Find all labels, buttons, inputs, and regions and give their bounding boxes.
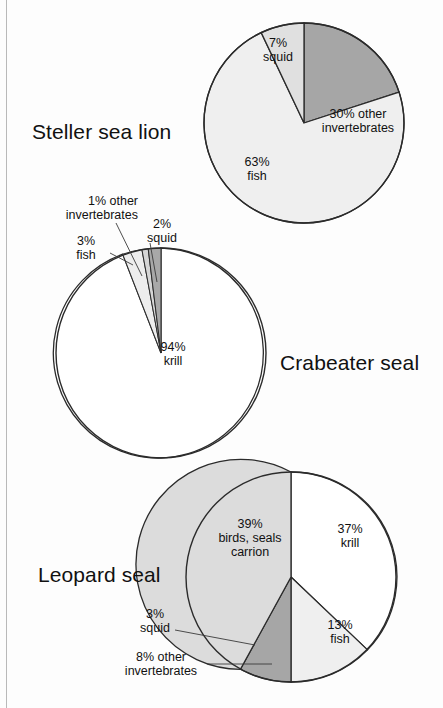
leader-line-squid xyxy=(175,630,255,645)
figure-canvas: Steller sea lion 7% squid 30% other inve… xyxy=(0,0,443,708)
leader-lines-leopard xyxy=(0,0,443,708)
